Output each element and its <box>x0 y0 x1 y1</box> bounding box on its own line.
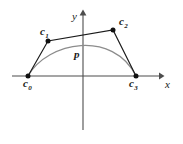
x-axis-label: x <box>165 79 170 90</box>
control-point-label-c3: c3 <box>129 78 137 89</box>
x-axis <box>12 72 165 79</box>
control-point-label-c2: c2 <box>119 16 127 27</box>
bezier-curve-figure: c0 c1 c2 c3 x y p <box>0 0 183 144</box>
control-point-label-c0: c0 <box>23 78 31 89</box>
bezier-curve-path <box>28 45 136 76</box>
y-axis-arrowhead <box>80 10 87 16</box>
x-axis-arrowhead <box>159 72 165 79</box>
figure-canvas <box>0 0 183 144</box>
y-axis <box>80 10 87 131</box>
curve-label-p: p <box>74 49 80 60</box>
control-point-label-c1: c1 <box>40 26 48 37</box>
control-point-c2[interactable] <box>111 28 116 33</box>
y-axis-label: y <box>72 11 77 22</box>
